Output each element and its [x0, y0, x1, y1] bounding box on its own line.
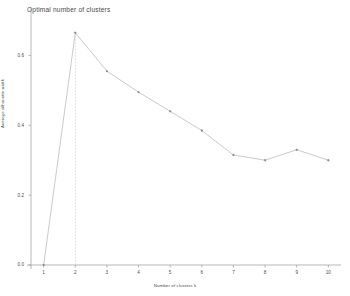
x-tick-label: 6: [195, 270, 209, 275]
data-point-marker: [327, 159, 329, 161]
x-tick-label: 5: [163, 270, 177, 275]
x-tick-label: 7: [226, 270, 240, 275]
x-tick-label: 1: [37, 270, 51, 275]
data-point-marker: [169, 110, 171, 112]
data-point-marker: [201, 130, 203, 132]
silhouette-chart: Optimal number of clusters Average silho…: [0, 0, 350, 296]
x-tick-label: 10: [321, 270, 335, 275]
data-point-marker: [106, 70, 108, 72]
y-tick-label: 0.6: [10, 53, 24, 58]
x-tick-label: 4: [132, 270, 146, 275]
data-point-marker: [138, 91, 140, 93]
axis-lines: [27, 8, 341, 269]
silhouette-line: [44, 33, 329, 265]
x-tick-label: 9: [290, 270, 304, 275]
y-tick-label: 0.4: [10, 123, 24, 128]
data-point-marker: [232, 154, 234, 156]
x-tick-label: 3: [100, 270, 114, 275]
data-point-marker: [74, 32, 76, 34]
data-markers: [43, 32, 330, 266]
data-point-marker: [296, 149, 298, 151]
data-point-marker: [43, 264, 45, 266]
plot-canvas: [0, 0, 350, 296]
data-series: [44, 33, 329, 265]
data-point-marker: [264, 159, 266, 161]
y-tick-label: 0.2: [10, 193, 24, 198]
y-tick-label: 0.0: [10, 262, 24, 267]
x-tick-label: 2: [68, 270, 82, 275]
x-tick-label: 8: [258, 270, 272, 275]
